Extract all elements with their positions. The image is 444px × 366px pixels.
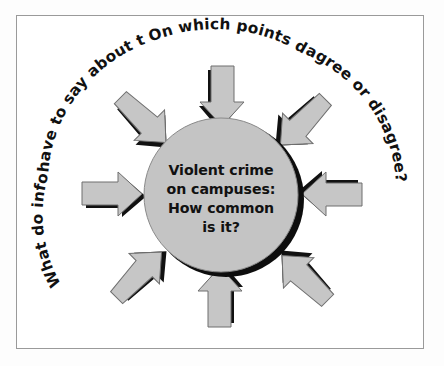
center-line-1: Violent crime <box>168 162 273 178</box>
ring-segment-3: On which points do sources <box>0 0 310 57</box>
arrow-from-left <box>82 172 146 217</box>
figure-root: What do informed sources have to say abo… <box>0 0 444 366</box>
center-line-2: on campuses: <box>167 181 276 197</box>
center-line-3: How common <box>168 200 274 216</box>
svg-text:On which points do sources: On which points do sources <box>0 0 310 57</box>
concept-map-diagram: What do informed sources have to say abo… <box>0 0 444 366</box>
svg-text:have to say about this topic?: have to say about this topic? <box>0 0 148 173</box>
ring-segment-2: have to say about this topic? <box>0 0 148 173</box>
center-line-4: is it? <box>202 219 240 235</box>
arrow-from-right <box>298 171 362 216</box>
